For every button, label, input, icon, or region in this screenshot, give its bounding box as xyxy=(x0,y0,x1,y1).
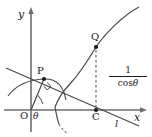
angle-theta-label: θ xyxy=(33,112,38,121)
length-label-one-over-cos-theta: 1 cosθ xyxy=(108,66,148,89)
geometry-figure: y x O θ P Q C l 1 cosθ xyxy=(0,0,152,137)
point-p-dot xyxy=(42,77,46,81)
point-p-label: P xyxy=(37,66,44,76)
x-axis-arrowhead xyxy=(140,107,147,112)
origin-label: O xyxy=(20,111,28,121)
point-c-label: C xyxy=(92,112,100,122)
y-axis-arrowhead xyxy=(28,7,33,14)
fraction-numerator: 1 xyxy=(108,66,148,76)
angle-theta-arc xyxy=(38,95,44,104)
x-axis-label: x xyxy=(134,112,140,123)
fraction-denominator-symbol: θ xyxy=(133,78,138,88)
y-axis-label: y xyxy=(18,9,24,20)
line-l-label: l xyxy=(115,119,118,129)
point-q-label: Q xyxy=(91,32,99,42)
curve-lower-branch-dashed xyxy=(59,124,68,134)
fraction-denominator: cosθ xyxy=(108,77,148,88)
point-q-dot xyxy=(94,45,98,49)
fraction-denominator-prefix: cos xyxy=(118,78,133,88)
segment-op xyxy=(31,79,44,110)
main-curve xyxy=(55,7,139,107)
